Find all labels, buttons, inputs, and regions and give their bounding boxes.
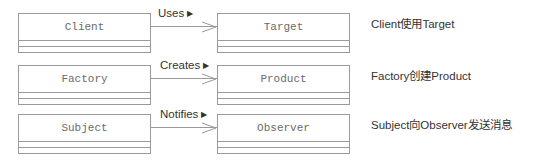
class-name: Product	[218, 66, 349, 93]
association-label: Creates▶	[160, 59, 209, 71]
open-arrowhead-icon	[201, 71, 217, 87]
association-row-3: Subject Notifies▶ Observer Subject向Obser…	[0, 114, 542, 154]
operations-compartment	[19, 148, 150, 153]
class-box-target[interactable]: Target	[217, 13, 350, 53]
association-label: Notifies▶	[160, 108, 207, 120]
class-box-subject[interactable]: Subject	[18, 114, 151, 154]
operations-compartment	[218, 47, 349, 52]
open-arrowhead-icon	[201, 120, 217, 136]
open-arrowhead-icon	[201, 19, 217, 35]
class-name: Client	[19, 14, 150, 41]
class-name: Subject	[19, 115, 150, 142]
class-name: Target	[218, 14, 349, 41]
association-name: Creates	[160, 59, 200, 71]
class-box-factory[interactable]: Factory	[18, 65, 151, 105]
association-description: Client使用Target	[371, 15, 454, 31]
class-name: Factory	[19, 66, 150, 93]
class-name: Observer	[218, 115, 349, 142]
operations-compartment	[218, 148, 349, 153]
association-name: Uses	[158, 7, 184, 19]
class-box-observer[interactable]: Observer	[217, 114, 350, 154]
association-name: Notifies	[160, 108, 198, 120]
direction-triangle-icon: ▶	[187, 9, 193, 18]
class-box-product[interactable]: Product	[217, 65, 350, 105]
class-box-client[interactable]: Client	[18, 13, 151, 53]
association-row-1: Client Uses▶ Target Client使用Target	[0, 13, 542, 53]
direction-triangle-icon: ▶	[201, 110, 207, 119]
operations-compartment	[19, 99, 150, 104]
direction-triangle-icon: ▶	[203, 61, 209, 70]
operations-compartment	[19, 47, 150, 52]
operations-compartment	[218, 99, 349, 104]
association-label: Uses▶	[158, 7, 193, 19]
association-description: Subject向Observer发送消息	[371, 116, 512, 132]
association-row-2: Factory Creates▶ Product Factory创建Produc…	[0, 65, 542, 105]
association-description: Factory创建Product	[371, 67, 471, 83]
